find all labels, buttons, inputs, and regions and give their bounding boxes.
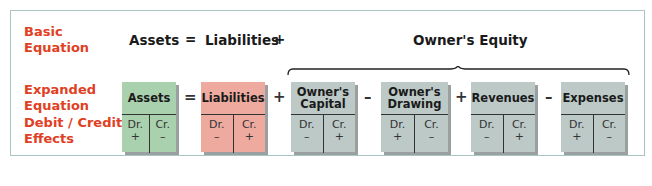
credit-column: Cr.+ — [504, 115, 536, 153]
debit-column: Dr.– — [201, 115, 234, 153]
account-name: Owner'sCapital — [291, 82, 355, 115]
equity-bracket — [287, 66, 630, 76]
basic-liabilities: Liabilities — [205, 32, 279, 48]
label-line: Expanded — [24, 82, 96, 98]
account-name: Revenues — [471, 82, 535, 115]
operator-equals: = — [184, 88, 197, 106]
credit-column: Cr.+ — [234, 115, 266, 153]
debit-column: Dr.– — [291, 115, 324, 153]
basic-equals: = — [185, 31, 196, 47]
credit-column: Cr.– — [415, 115, 448, 153]
debit-column: Dr.+ — [561, 115, 594, 153]
operator-plus: + — [455, 88, 468, 106]
account-name: Expenses — [561, 82, 625, 115]
t-account-expenses: Expenses Dr.+ Cr.– — [561, 82, 625, 152]
operator-minus: – — [364, 88, 372, 106]
basic-owners-equity: Owner's Equity — [413, 32, 528, 48]
t-account-liabilities: Liabilities Dr.– Cr.+ — [201, 82, 265, 152]
account-name: Assets — [122, 82, 176, 115]
operator-plus: + — [273, 88, 286, 106]
t-account-owners-capital: Owner'sCapital Dr.– Cr.+ — [291, 82, 355, 152]
label-line: Equation — [24, 40, 89, 56]
basic-plus: + — [274, 31, 285, 47]
t-account-assets: Assets Dr.+ Cr.– — [122, 82, 176, 152]
basic-equation-label: Basic Equation — [24, 24, 89, 56]
debit-column: Dr.+ — [381, 115, 415, 153]
credit-column: Cr.– — [594, 115, 626, 153]
expanded-equation-label: Expanded Equation — [24, 82, 96, 114]
t-account-owners-drawing: Owner'sDrawing Dr.+ Cr.– — [381, 82, 448, 152]
basic-assets: Assets — [129, 32, 179, 48]
account-name: Owner'sDrawing — [381, 82, 448, 115]
credit-column: Cr.– — [150, 115, 177, 153]
debit-credit-effects-label: Debit / Credit Effects — [24, 115, 122, 147]
label-line: Effects — [24, 131, 122, 147]
operator-minus: – — [545, 88, 553, 106]
account-name: Liabilities — [201, 82, 265, 115]
debit-column: Dr.– — [471, 115, 504, 153]
label-line: Debit / Credit — [24, 115, 122, 131]
label-line: Basic — [24, 24, 89, 40]
credit-column: Cr.+ — [324, 115, 356, 153]
label-line: Equation — [24, 98, 96, 114]
debit-column: Dr.+ — [122, 115, 150, 153]
t-account-revenues: Revenues Dr.– Cr.+ — [471, 82, 535, 152]
